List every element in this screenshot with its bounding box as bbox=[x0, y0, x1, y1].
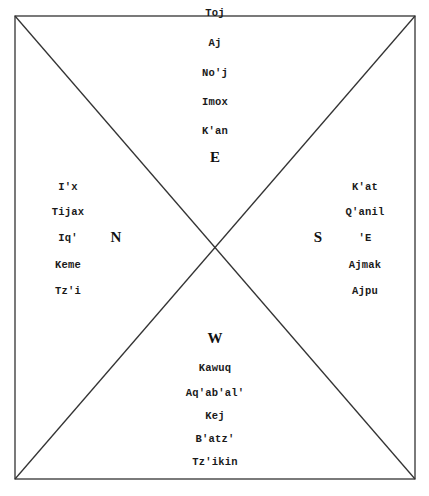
direction-east-label: E bbox=[210, 150, 220, 165]
east-day-2: Aj bbox=[208, 38, 221, 49]
east-day-1: Toj bbox=[205, 8, 225, 19]
direction-north-label: N bbox=[111, 230, 122, 245]
east-day-5: K'an bbox=[202, 126, 228, 137]
east-day-4: Imox bbox=[202, 97, 228, 108]
south-day-4: Ajmak bbox=[349, 260, 382, 271]
east-day-3: No'j bbox=[202, 68, 228, 79]
south-day-2: Q'anil bbox=[345, 207, 384, 218]
direction-south-label: S bbox=[314, 230, 322, 245]
north-day-4: Keme bbox=[55, 260, 81, 271]
west-day-4: B'atz' bbox=[195, 434, 234, 445]
north-day-1: I'x bbox=[58, 182, 78, 193]
west-day-5: Tz'ikin bbox=[192, 457, 238, 468]
north-day-2: Tijax bbox=[52, 207, 85, 218]
direction-west-label: W bbox=[208, 331, 223, 346]
west-day-3: Kej bbox=[205, 411, 225, 422]
west-day-2: Aq'ab'al' bbox=[186, 388, 245, 399]
south-day-1: K'at bbox=[352, 182, 378, 193]
south-day-3: 'E bbox=[358, 233, 371, 244]
north-day-5: Tz'i bbox=[55, 286, 81, 297]
south-day-5: Ajpu bbox=[352, 286, 378, 297]
north-day-3: Iq' bbox=[58, 233, 78, 244]
west-day-1: Kawuq bbox=[199, 363, 232, 374]
